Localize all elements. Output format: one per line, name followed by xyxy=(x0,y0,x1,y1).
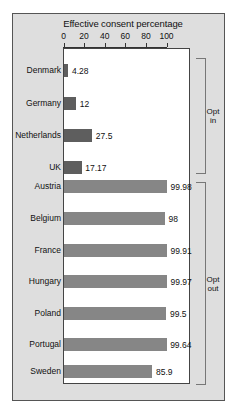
bar-value-label: 12 xyxy=(80,99,89,109)
bar-value-label: 99.91 xyxy=(170,246,191,256)
bar-sweden xyxy=(64,365,152,378)
x-tick-label-0: 0 xyxy=(61,31,66,41)
bar-category-label: UK xyxy=(49,162,61,172)
bar-value-label: 99.64 xyxy=(170,340,191,350)
chart-figure: Effective consent percentage 02040608010… xyxy=(0,0,235,419)
x-axis-tick-labels: 020406080100 xyxy=(0,31,235,43)
bar-france xyxy=(64,244,167,257)
bar-portugal xyxy=(64,338,167,351)
bar-value-label: 99.97 xyxy=(170,277,191,287)
bar-uk xyxy=(64,161,82,174)
bar-germany xyxy=(64,97,76,110)
x-tick-label-20: 20 xyxy=(79,31,88,41)
bar-category-label: Germany xyxy=(26,98,61,108)
bar-value-label: 17.17 xyxy=(85,163,106,173)
bracket-label-opt-in: Opt in xyxy=(202,107,224,125)
bar-belgium xyxy=(64,212,165,225)
bar-poland xyxy=(64,307,166,320)
bar-denmark xyxy=(64,64,68,77)
bracket-label-opt-out: Opt out xyxy=(202,275,224,293)
bar-value-label: 98 xyxy=(168,214,177,224)
bar-category-label: France xyxy=(35,245,61,255)
bar-value-label: 85.9 xyxy=(156,367,173,377)
bar-category-label: Belgium xyxy=(30,213,61,223)
bar-value-label: 27.5 xyxy=(96,131,113,141)
bar-netherlands xyxy=(64,129,92,142)
bar-value-label: 99.5 xyxy=(170,309,187,319)
bar-category-label: Portugal xyxy=(29,339,61,349)
bar-category-label: Sweden xyxy=(30,366,61,376)
bar-value-label: 99.98 xyxy=(170,182,191,192)
bar-category-label: Denmark xyxy=(27,65,61,75)
x-tick-label-100: 100 xyxy=(159,31,173,41)
bar-value-label: 4.28 xyxy=(72,66,89,76)
bar-austria xyxy=(64,180,167,193)
chart-title: Effective consent percentage xyxy=(56,18,190,29)
bar-category-label: Netherlands xyxy=(15,130,61,140)
x-tick-label-60: 60 xyxy=(121,31,130,41)
x-tick-label-40: 40 xyxy=(100,31,109,41)
bar-category-label: Hungary xyxy=(29,276,61,286)
bar-hungary xyxy=(64,275,167,288)
x-tick-label-80: 80 xyxy=(141,31,150,41)
bar-category-label: Poland xyxy=(35,308,61,318)
bar-category-label: Austria xyxy=(35,181,61,191)
